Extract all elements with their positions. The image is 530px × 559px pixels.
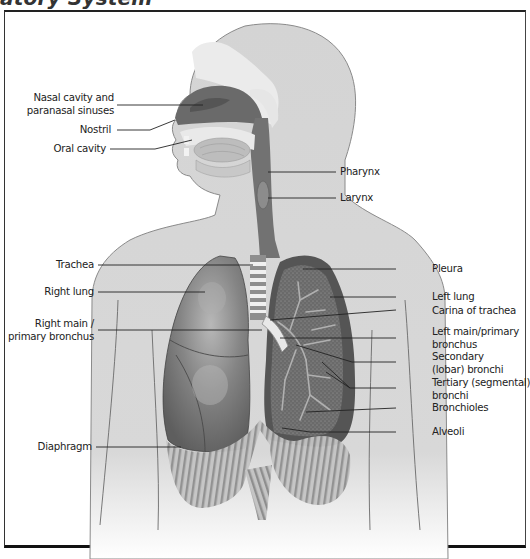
label-line: Tertiary (segmental): [432, 377, 530, 390]
label-left-lung: Left lung: [432, 291, 474, 304]
respiratory-system-illustration: [0, 0, 530, 559]
label-line: Left main/primary: [432, 326, 519, 339]
label-right-main-bronchus: Right main / primary bronchus: [8, 318, 94, 343]
label-line: bronchus: [432, 339, 519, 352]
label-secondary-bronchi: Secondary (lobar) bronchi: [432, 351, 503, 376]
label-pleura: Pleura: [432, 263, 463, 276]
label-larynx: Larynx: [340, 192, 373, 205]
label-bronchioles: Bronchioles: [432, 402, 488, 415]
label-right-lung: Right lung: [44, 286, 94, 299]
label-diaphragm: Diaphragm: [38, 441, 92, 454]
label-line: primary bronchus: [8, 331, 94, 344]
label-pharynx: Pharynx: [340, 166, 380, 179]
label-nasal-cavity: Nasal cavity and paranasal sinuses: [27, 92, 114, 117]
label-line: Right main /: [8, 318, 94, 331]
label-alveoli: Alveoli: [432, 426, 464, 439]
tongue: [194, 138, 250, 162]
label-carina: Carina of trachea: [432, 305, 516, 318]
label-oral-cavity: Oral cavity: [54, 143, 107, 156]
label-line: bronchi: [432, 390, 530, 403]
label-trachea: Trachea: [56, 259, 94, 272]
label-nostril: Nostril: [80, 124, 111, 137]
label-line: Nasal cavity and: [27, 92, 114, 105]
label-tertiary-bronchi: Tertiary (segmental) bronchi: [432, 377, 530, 402]
label-left-main-bronchus: Left main/primary bronchus: [432, 326, 519, 351]
label-line: paranasal sinuses: [27, 105, 114, 118]
label-line: Secondary: [432, 351, 503, 364]
label-line: (lobar) bronchi: [432, 364, 503, 377]
